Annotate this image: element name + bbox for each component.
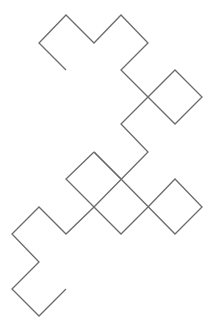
curve-segment-2 [94,152,121,179]
dragon-curve [0,0,221,330]
fractal-diagram [0,0,221,330]
curve-segment-1 [66,152,202,234]
